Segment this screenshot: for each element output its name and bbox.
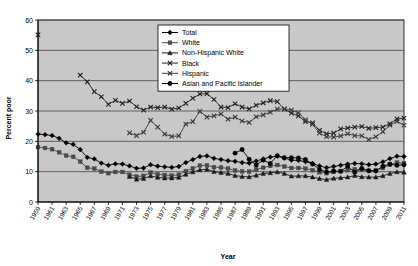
data-point-marker — [282, 156, 286, 160]
y-axis-tick-label: 10 — [25, 168, 33, 175]
data-point-marker — [240, 169, 244, 173]
data-point-marker — [240, 147, 244, 151]
data-point-marker — [353, 170, 357, 174]
data-point-marker — [331, 169, 335, 173]
data-point-marker — [233, 169, 237, 173]
data-point-marker — [304, 167, 308, 171]
data-point-marker — [198, 164, 202, 168]
data-point-marker — [64, 154, 68, 158]
data-point-marker — [78, 160, 82, 164]
poverty-rate-line-chart: 0102030405060 19591961196319651967196919… — [0, 0, 418, 266]
data-point-marker — [346, 168, 350, 172]
y-axis-title: Percent poor — [5, 96, 13, 139]
data-point-marker — [296, 156, 300, 160]
data-point-marker — [71, 155, 75, 159]
chart-container: 0102030405060 19591961196319651967196919… — [0, 0, 418, 266]
data-point-marker — [106, 171, 110, 175]
legend-label: Asian and Pacific Islander — [182, 80, 263, 87]
y-axis-tick-label: 50 — [25, 47, 33, 54]
data-point-marker — [338, 169, 342, 173]
data-point-marker — [57, 150, 61, 154]
data-point-marker — [289, 166, 293, 170]
data-point-marker — [345, 164, 349, 168]
data-point-marker — [92, 167, 96, 171]
data-point-marker — [254, 168, 258, 172]
data-point-marker — [121, 170, 125, 174]
data-point-marker — [275, 163, 279, 167]
data-point-marker — [233, 151, 237, 155]
data-point-marker — [374, 169, 378, 173]
data-point-marker — [311, 168, 315, 172]
data-point-marker — [219, 166, 223, 170]
data-point-marker — [50, 147, 54, 151]
data-point-marker — [282, 165, 286, 169]
y-axis-tick-label: 0 — [29, 199, 33, 206]
data-point-marker — [261, 158, 265, 162]
legend: TotalWhiteNon-Hispanic WhiteBlackHispani… — [158, 25, 289, 91]
data-point-marker — [43, 146, 47, 150]
data-point-marker — [168, 81, 172, 85]
y-axis-tick-label: 20 — [25, 138, 33, 145]
data-point-marker — [317, 167, 321, 171]
legend-label: White — [182, 39, 200, 46]
data-point-marker — [247, 170, 251, 174]
x-axis-title: Year — [221, 253, 236, 260]
data-point-marker — [168, 41, 172, 45]
data-point-marker — [247, 157, 251, 161]
data-point-marker — [297, 166, 301, 170]
legend-label: Black — [182, 60, 200, 67]
data-point-marker — [360, 166, 364, 170]
data-point-marker — [303, 157, 307, 161]
data-point-marker — [289, 156, 293, 160]
data-point-marker — [261, 166, 265, 170]
y-axis-tick-label: 60 — [25, 17, 33, 24]
legend-label: Hispanic — [182, 70, 209, 78]
data-point-marker — [310, 162, 314, 166]
legend-label: Non-Hispanic White — [182, 49, 244, 57]
data-point-marker — [402, 162, 406, 166]
data-point-marker — [114, 170, 118, 174]
data-point-marker — [388, 162, 392, 166]
data-point-marker — [367, 169, 371, 173]
data-point-marker — [275, 153, 279, 157]
data-point-marker — [226, 167, 230, 171]
y-axis-tick-label: 30 — [25, 108, 33, 115]
data-point-marker — [395, 163, 399, 167]
data-point-marker — [381, 164, 385, 168]
data-point-marker — [254, 163, 258, 167]
data-point-marker — [212, 165, 216, 169]
data-point-marker — [268, 161, 272, 165]
data-point-marker — [324, 170, 328, 174]
data-point-marker — [99, 170, 103, 174]
data-point-marker — [85, 166, 89, 170]
legend-label: Total — [182, 29, 197, 36]
y-axis-tick-label: 40 — [25, 77, 33, 84]
